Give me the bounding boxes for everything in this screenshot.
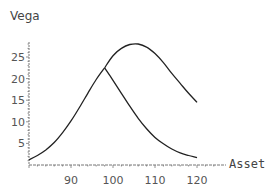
- x-tick-label: 100: [103, 174, 124, 187]
- series-1-rise: [29, 68, 105, 160]
- y-axis-title: Vega: [10, 9, 40, 23]
- ticks: 90100110120510152025: [11, 44, 214, 187]
- x-tick-label: 110: [145, 174, 166, 187]
- series-1-fall: [105, 68, 197, 158]
- y-tick-label: 5: [18, 137, 25, 150]
- y-tick-label: 20: [11, 73, 25, 86]
- series-lines: [29, 44, 197, 160]
- y-tick-label: 10: [11, 116, 25, 129]
- x-axis-title: Asset: [229, 157, 265, 171]
- x-tick-label: 120: [187, 174, 208, 187]
- series-2-line: [105, 44, 197, 103]
- vega-chart: 90100110120510152025 Vega Asset: [0, 0, 272, 190]
- y-tick-label: 15: [11, 94, 25, 107]
- x-tick-label: 90: [64, 174, 78, 187]
- y-tick-label: 25: [11, 51, 25, 64]
